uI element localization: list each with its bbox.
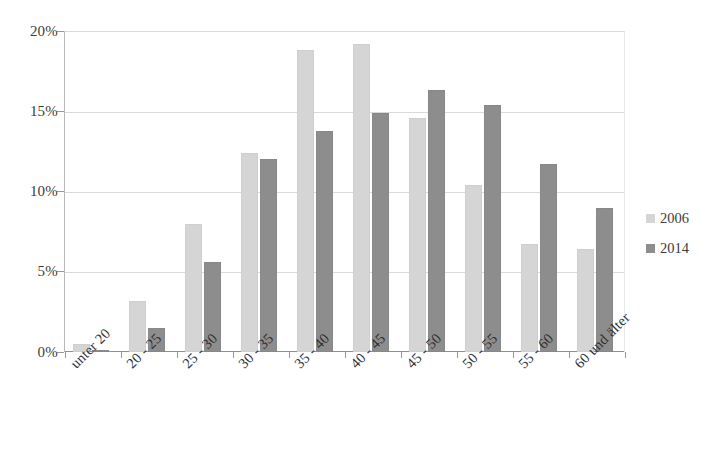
bar-2006-25---30[interactable]	[185, 224, 202, 352]
y-axis-label-10: 10%	[8, 184, 58, 199]
legend-item-2014[interactable]: 2014	[646, 233, 712, 263]
y-axis-label-20: 20%	[8, 24, 58, 39]
bar-2006-35---40[interactable]	[297, 50, 314, 352]
y-axis-label-5: 5%	[8, 264, 58, 279]
bar-2014-30---35[interactable]	[260, 159, 277, 352]
bar-group	[233, 31, 289, 352]
bar-group	[401, 31, 457, 352]
y-tick-5	[57, 271, 64, 272]
bar-2006-50---55[interactable]	[465, 185, 482, 352]
bar-2006-30---35[interactable]	[241, 153, 258, 352]
legend-swatch-icon-2006	[646, 214, 655, 223]
bar-group	[65, 31, 121, 352]
bar-2006-40---45[interactable]	[353, 44, 370, 352]
bar-2006-45---50[interactable]	[409, 118, 426, 352]
bar-2006-55---60[interactable]	[521, 244, 538, 352]
bar-chart: 20% 15% 10% 5% 0% unter 2020 - 2525 - 30…	[0, 0, 715, 460]
legend-label-2014: 2014	[660, 241, 689, 256]
bar-group	[289, 31, 345, 352]
bar-group	[345, 31, 401, 352]
bar-group	[177, 31, 233, 352]
y-tick-15	[57, 111, 64, 112]
bar-series-container	[65, 31, 625, 352]
legend-label-2006: 2006	[660, 211, 689, 226]
bar-2014-35---40[interactable]	[316, 131, 333, 352]
bar-2014-50---55[interactable]	[484, 105, 501, 352]
legend-item-2006[interactable]: 2006	[646, 203, 712, 233]
bar-2014-40---45[interactable]	[372, 113, 389, 352]
y-axis-label-15: 15%	[8, 104, 58, 119]
x-axis-labels: unter 2020 - 2525 - 3030 - 3535 - 4040 -…	[0, 352, 715, 460]
y-tick-20	[57, 31, 64, 32]
bar-group	[513, 31, 569, 352]
bar-2014-45---50[interactable]	[428, 90, 445, 352]
bar-2014-55---60[interactable]	[540, 164, 557, 352]
y-tick-10	[57, 191, 64, 192]
bar-2006-60-und-älter[interactable]	[577, 249, 594, 352]
bar-group	[457, 31, 513, 352]
chart-legend: 2006 2014	[646, 203, 712, 263]
bar-group	[121, 31, 177, 352]
legend-swatch-icon-2014	[646, 244, 655, 253]
bar-group	[569, 31, 625, 352]
